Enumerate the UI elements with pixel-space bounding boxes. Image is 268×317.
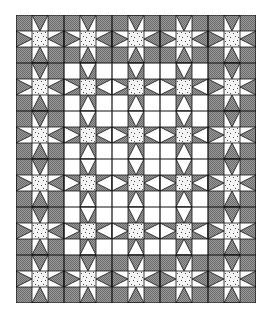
corner-cell (64, 159, 80, 175)
corner-cell (192, 95, 208, 111)
corner-cell (16, 15, 32, 31)
star-center-cell (176, 223, 192, 239)
corner-cell (112, 255, 128, 271)
corner-cell (96, 15, 112, 31)
corner-cell (16, 191, 32, 207)
corner-cell (192, 207, 208, 223)
corner-cell (192, 255, 208, 271)
star-center-cell (176, 79, 192, 95)
star-center-cell (32, 127, 48, 143)
corner-cell (208, 63, 224, 79)
corner-cell (16, 159, 32, 175)
corner-cell (48, 47, 64, 63)
star-center-cell (224, 271, 240, 287)
corner-cell (160, 255, 176, 271)
corner-cell (96, 159, 112, 175)
star-center-cell (32, 175, 48, 191)
corner-cell (64, 111, 80, 127)
corner-cell (64, 143, 80, 159)
star-center-cell (80, 79, 96, 95)
corner-cell (192, 15, 208, 31)
corner-cell (16, 63, 32, 79)
corner-cell (112, 63, 128, 79)
star-center-cell (224, 175, 240, 191)
corner-cell (144, 111, 160, 127)
corner-cell (64, 95, 80, 111)
corner-cell (64, 63, 80, 79)
star-center-cell (80, 127, 96, 143)
corner-cell (144, 191, 160, 207)
corner-cell (112, 159, 128, 175)
corner-cell (112, 47, 128, 63)
corner-cell (160, 191, 176, 207)
corner-cell (64, 15, 80, 31)
corner-cell (160, 47, 176, 63)
star-center-cell (80, 223, 96, 239)
corner-cell (96, 287, 112, 303)
corner-cell (160, 15, 176, 31)
corner-cell (48, 143, 64, 159)
corner-cell (192, 287, 208, 303)
corner-cell (112, 239, 128, 255)
corner-cell (16, 239, 32, 255)
corner-cell (144, 47, 160, 63)
star-center-cell (128, 223, 144, 239)
corner-cell (240, 15, 256, 31)
corner-cell (96, 95, 112, 111)
star-center-cell (32, 271, 48, 287)
corner-cell (48, 63, 64, 79)
corner-cell (240, 95, 256, 111)
corner-cell (192, 191, 208, 207)
star-center-cell (176, 175, 192, 191)
corner-cell (96, 207, 112, 223)
corner-cell (240, 255, 256, 271)
corner-cell (208, 159, 224, 175)
corner-cell (240, 239, 256, 255)
corner-cell (192, 47, 208, 63)
corner-cell (112, 287, 128, 303)
star-center-cell (224, 223, 240, 239)
corner-cell (208, 143, 224, 159)
corner-cell (64, 191, 80, 207)
corner-cell (16, 47, 32, 63)
star-center-cell (128, 79, 144, 95)
star-center-cell (128, 31, 144, 47)
corner-cell (208, 239, 224, 255)
corner-cell (192, 239, 208, 255)
quilt-grid (16, 15, 256, 303)
corner-cell (48, 207, 64, 223)
corner-cell (192, 111, 208, 127)
corner-cell (96, 255, 112, 271)
corner-cell (240, 47, 256, 63)
corner-cell (160, 143, 176, 159)
corner-cell (240, 159, 256, 175)
corner-cell (16, 255, 32, 271)
star-center-cell (224, 31, 240, 47)
star-center-cell (176, 127, 192, 143)
corner-cell (64, 255, 80, 271)
corner-cell (208, 95, 224, 111)
corner-cell (16, 287, 32, 303)
star-center-cell (128, 175, 144, 191)
star-center-cell (224, 127, 240, 143)
corner-cell (208, 15, 224, 31)
corner-cell (64, 287, 80, 303)
corner-cell (192, 143, 208, 159)
corner-cell (192, 159, 208, 175)
corner-cell (48, 111, 64, 127)
corner-cell (160, 63, 176, 79)
corner-cell (112, 143, 128, 159)
corner-cell (144, 287, 160, 303)
star-center-cell (80, 175, 96, 191)
corner-cell (16, 143, 32, 159)
corner-cell (144, 63, 160, 79)
corner-cell (144, 95, 160, 111)
corner-cell (160, 159, 176, 175)
corner-cell (96, 239, 112, 255)
corner-cell (208, 255, 224, 271)
corner-cell (240, 63, 256, 79)
corner-cell (208, 287, 224, 303)
corner-cell (48, 15, 64, 31)
corner-cell (192, 63, 208, 79)
corner-cell (96, 47, 112, 63)
